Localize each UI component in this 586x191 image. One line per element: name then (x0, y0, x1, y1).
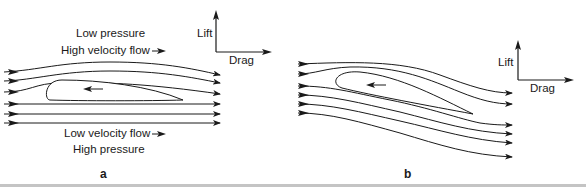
inlet-arrowheads (298, 61, 309, 116)
label-low-pressure: Low pressure (76, 28, 145, 40)
label-low-velocity-flow: Low velocity flow (64, 128, 150, 140)
streamline (298, 113, 512, 157)
streamline (298, 104, 512, 143)
label-lift: Lift (197, 28, 212, 40)
label-high-velocity-flow: High velocity flow (61, 45, 150, 57)
inlet-arrowheads (8, 69, 19, 126)
force-axes (216, 14, 266, 52)
streamline (4, 71, 220, 83)
force-axes (518, 44, 568, 80)
panel-b: Lift Drag b (290, 0, 586, 184)
label-drag: Drag (530, 83, 555, 95)
streamline (4, 62, 220, 75)
panel-letter-b: b (404, 168, 411, 180)
bottom-divider (0, 184, 586, 187)
panel-letter-a: a (100, 168, 107, 180)
label-drag: Drag (229, 55, 254, 67)
airfoil (46, 80, 183, 101)
panel-a: Low pressure High velocity flow Low velo… (0, 0, 290, 184)
label-high-pressure: High pressure (73, 144, 145, 156)
label-lift: Lift (498, 57, 513, 69)
